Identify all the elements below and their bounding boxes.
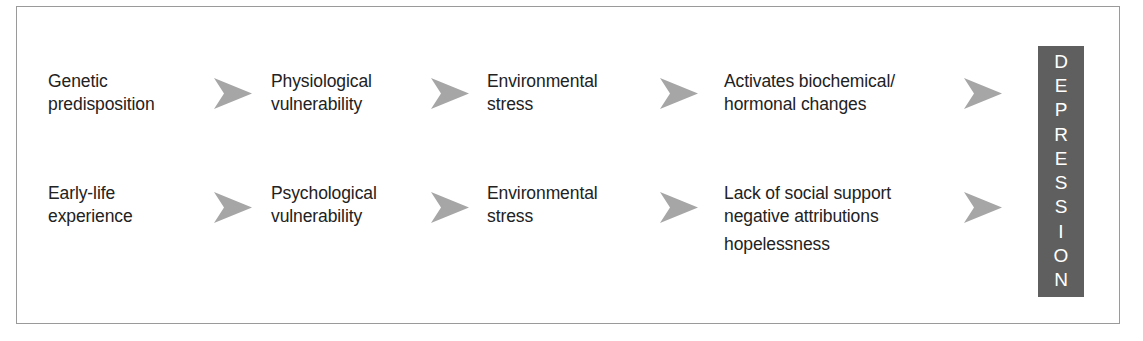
arrowhead-right-icon <box>431 192 469 223</box>
node-line: stress <box>487 93 598 116</box>
node-line: negative attributions <box>724 205 891 228</box>
outcome-letter: R <box>1054 124 1068 146</box>
outcome-letter: P <box>1055 99 1068 121</box>
node-psychological-vulnerability: Psychological vulnerability <box>271 182 377 228</box>
node-line: Activates biochemical/ <box>724 70 895 93</box>
diagram-frame <box>16 6 1120 324</box>
node-line: stress <box>487 205 598 228</box>
node-line: Genetic <box>48 70 155 93</box>
outcome-letter: D <box>1054 51 1068 73</box>
outcome-letter: N <box>1054 269 1068 291</box>
arrowhead-right-icon <box>214 192 252 223</box>
node-line: vulnerability <box>271 205 377 228</box>
arrowhead-right-icon <box>964 192 1002 223</box>
node-environmental-stress-2: Environmental stress <box>487 182 598 228</box>
outcome-letter: S <box>1055 196 1068 218</box>
node-biochemical-changes: Activates biochemical/ hormonal changes <box>724 70 895 116</box>
node-line: Environmental <box>487 70 598 93</box>
node-line: vulnerability <box>271 93 372 116</box>
node-line: Early-life <box>48 182 133 205</box>
node-genetic-predisposition: Genetic predisposition <box>48 70 155 116</box>
arrowhead-right-icon <box>214 78 252 109</box>
arrowhead-right-icon <box>431 78 469 109</box>
node-line: hormonal changes <box>724 93 895 116</box>
outcome-letter: E <box>1055 148 1068 170</box>
arrowhead-right-icon <box>964 78 1002 109</box>
outcome-letter: O <box>1054 245 1069 267</box>
outcome-depression-box: D E P R E S S I O N <box>1038 46 1084 297</box>
node-environmental-stress: Environmental stress <box>487 70 598 116</box>
arrowhead-right-icon <box>660 78 698 109</box>
outcome-letter: E <box>1055 75 1068 97</box>
node-physiological-vulnerability: Physiological vulnerability <box>271 70 372 116</box>
node-line: Environmental <box>487 182 598 205</box>
node-line: hopelessness <box>724 233 891 256</box>
arrowhead-right-icon <box>660 192 698 223</box>
node-line: Lack of social support <box>724 182 891 205</box>
node-line: experience <box>48 205 133 228</box>
node-early-life-experience: Early-life experience <box>48 182 133 228</box>
node-social-factors: Lack of social support negative attribut… <box>724 182 891 256</box>
outcome-letter: S <box>1055 172 1068 194</box>
outcome-letter: I <box>1058 221 1063 243</box>
node-line: Physiological <box>271 70 372 93</box>
node-line: predisposition <box>48 93 155 116</box>
node-line: Psychological <box>271 182 377 205</box>
